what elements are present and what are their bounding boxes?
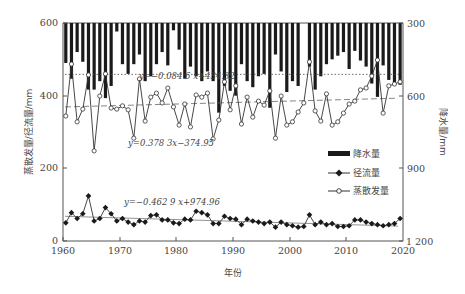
evap-point — [205, 91, 209, 95]
evap-point — [171, 105, 175, 109]
precip-bar — [257, 23, 260, 76]
evap-point — [69, 62, 73, 66]
runoff-point — [329, 221, 335, 227]
evap-point — [313, 109, 317, 113]
x-tick-1980: 1980 — [164, 245, 188, 256]
legend-precip-swatch — [328, 151, 350, 156]
precip-bar — [285, 23, 288, 92]
precip-bar — [319, 23, 322, 76]
runoff-point — [210, 221, 216, 227]
evap-point — [217, 118, 221, 122]
right-axis: 300 600 900 1 200 — [399, 18, 433, 247]
x-tick-2000: 2000 — [278, 245, 302, 256]
runoff-point — [165, 217, 171, 223]
precip-bar — [399, 23, 402, 85]
runoff-point — [307, 212, 313, 218]
evap-point — [353, 99, 357, 103]
evap-point — [92, 149, 96, 153]
evap-point — [279, 94, 283, 98]
evap-point — [86, 73, 90, 77]
evap-point — [98, 94, 102, 98]
precip-bar — [166, 23, 169, 65]
legend-evap-marker — [337, 189, 342, 194]
evap-point — [285, 123, 289, 127]
precip-bar — [263, 23, 266, 74]
precip-bar — [195, 23, 198, 76]
runoff-point — [227, 216, 233, 222]
evap-point — [268, 89, 272, 93]
precip-bar — [246, 23, 249, 81]
evap-point — [143, 119, 147, 123]
precip-bar — [189, 23, 192, 67]
evap-point — [296, 110, 300, 114]
precip-bar — [280, 23, 283, 71]
evap-point — [154, 91, 158, 95]
evap-point — [307, 60, 311, 64]
runoff-point — [250, 218, 256, 224]
left-tick-200: 200 — [40, 162, 58, 173]
precip-bar — [217, 23, 220, 113]
left-tick-600: 600 — [40, 17, 58, 28]
evap-point — [336, 120, 340, 124]
precip-bar — [268, 23, 271, 108]
evap-point — [177, 123, 181, 127]
precip-bar — [76, 23, 79, 52]
x-axis: 1960 1970 1980 1990 2000 2010 2020 — [51, 237, 415, 256]
x-tick-1960: 1960 — [51, 245, 75, 256]
x-tick-1970: 1970 — [108, 245, 132, 256]
runoff-point — [120, 216, 126, 222]
runoff-point — [91, 218, 97, 224]
runoff-point — [193, 208, 199, 214]
evap-point — [245, 95, 249, 99]
precip-bar — [274, 23, 277, 54]
evap-point — [392, 82, 396, 86]
right-tick-300: 300 — [407, 18, 425, 29]
runoff-point — [324, 222, 330, 228]
precip-bar — [314, 23, 317, 90]
precip-bar — [172, 23, 175, 30]
precip-bar — [240, 23, 243, 64]
evap-point — [330, 123, 334, 127]
plot-frame — [63, 23, 403, 241]
precip-bar — [251, 23, 254, 87]
runoff-point — [363, 219, 369, 225]
precip-bar — [365, 23, 368, 67]
evap-point — [262, 103, 266, 107]
right-axis-title: 降水量/mm — [438, 108, 449, 156]
evap-point — [126, 108, 130, 112]
precip-bar — [336, 23, 339, 56]
precip-bar — [382, 23, 385, 65]
precip-bar — [178, 23, 181, 50]
right-tick-600: 600 — [407, 91, 425, 102]
runoff-point — [205, 212, 211, 218]
evap-point — [115, 107, 119, 111]
evap-point — [81, 107, 85, 111]
precip-bar — [149, 23, 152, 76]
evap-point — [381, 111, 385, 115]
evap-point — [256, 99, 260, 103]
evap-point — [273, 136, 277, 140]
runoff-point — [171, 220, 177, 226]
precip-bar — [138, 23, 141, 54]
evap-point — [64, 114, 68, 118]
evap-point — [375, 58, 379, 62]
legend-runoff-label: 径流量 — [353, 167, 380, 178]
evap-point — [302, 101, 306, 105]
legend: 降水量 径流量 蒸散发量 — [328, 148, 389, 196]
legend-precip-label: 降水量 — [353, 148, 380, 159]
precip-bar — [393, 23, 396, 82]
evap-point — [120, 104, 124, 108]
runoff-point — [131, 222, 137, 228]
x-tick-1990: 1990 — [221, 245, 245, 256]
runoff-point — [290, 223, 296, 229]
precip-bar — [297, 23, 300, 86]
precip-bar — [342, 23, 345, 52]
evap-point — [103, 72, 107, 76]
precip-bar — [325, 23, 328, 64]
evap-point — [109, 106, 113, 110]
evap-point — [358, 88, 362, 92]
evap-point — [183, 102, 187, 106]
runoff-point — [386, 222, 392, 228]
precip-trend-equation: y=−0.084 6 x+434.32 — [138, 71, 235, 81]
runoff-point — [86, 193, 92, 199]
